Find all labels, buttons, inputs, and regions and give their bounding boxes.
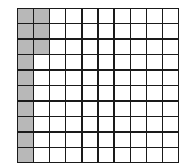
grid-cell (99, 24, 114, 38)
grid-cell (83, 55, 98, 69)
grid-cell (131, 40, 146, 54)
grid-cell (50, 71, 65, 85)
grid-cell-shaded (18, 102, 33, 116)
grid-cell (147, 117, 162, 131)
grid-cell (147, 40, 162, 54)
grid-cell (163, 55, 178, 69)
grid-cell (34, 102, 49, 116)
grid-cell (163, 40, 178, 54)
grid-cell (50, 40, 65, 54)
grid-cell (131, 55, 146, 69)
grid-cell-shaded (18, 40, 33, 54)
grid-cell (50, 86, 65, 100)
grid-cell (115, 133, 130, 147)
grid-cell (34, 71, 49, 85)
grid-cell (147, 133, 162, 147)
grid-cell (34, 55, 49, 69)
grid-cell-shaded (18, 55, 33, 69)
grid-cell (83, 71, 98, 85)
grid-cell (99, 102, 114, 116)
grid-cell (99, 117, 114, 131)
grid-cell (163, 86, 178, 100)
grid-cell (83, 133, 98, 147)
grid-cell (50, 117, 65, 131)
grid-cell (115, 102, 130, 116)
grid-cell-shaded (18, 71, 33, 85)
grid-cell (83, 24, 98, 38)
grid-cell (115, 9, 130, 23)
grid-cell (163, 102, 178, 116)
grid-cell (147, 102, 162, 116)
grid-cell-shaded (18, 9, 33, 23)
grid-cell (50, 102, 65, 116)
grid-cell (131, 71, 146, 85)
grid-cell (163, 133, 178, 147)
grid-cell (115, 71, 130, 85)
grid-cell-shaded (34, 9, 49, 23)
grid-cell (66, 117, 81, 131)
grid-cell (83, 117, 98, 131)
grid-cell (99, 148, 114, 162)
grid-cell (131, 117, 146, 131)
grid-cell (115, 24, 130, 38)
grid-cell (50, 55, 65, 69)
grid-cell-shaded (18, 117, 33, 131)
grid-cell (115, 148, 130, 162)
grid-cell (147, 24, 162, 38)
grid-cell (163, 117, 178, 131)
grid-cell (115, 40, 130, 54)
grid-cell (147, 148, 162, 162)
grid-cell (83, 102, 98, 116)
grid-cell (50, 148, 65, 162)
grid-cell (83, 40, 98, 54)
grid-cell (66, 9, 81, 23)
grid-cell (34, 148, 49, 162)
grid-cell (99, 133, 114, 147)
grid-cell (115, 117, 130, 131)
grid-cell (34, 133, 49, 147)
grid-cell-shaded (34, 40, 49, 54)
grid-cell (115, 55, 130, 69)
hundred-grid (17, 8, 179, 163)
grid-cell (66, 24, 81, 38)
grid-cell (163, 9, 178, 23)
grid-cell (99, 40, 114, 54)
grid-cell (147, 71, 162, 85)
grid-cell (131, 86, 146, 100)
grid-cell (131, 102, 146, 116)
grid-cell (147, 86, 162, 100)
grid-cell (163, 24, 178, 38)
grid-cell (66, 102, 81, 116)
grid-cell (147, 55, 162, 69)
grid-cell (99, 55, 114, 69)
grid-cell (83, 148, 98, 162)
grid-cell (131, 148, 146, 162)
grid-cell-shaded (18, 148, 33, 162)
grid-cell-shaded (18, 133, 33, 147)
grid-cell (50, 9, 65, 23)
grid-cell (99, 86, 114, 100)
grid-cell-shaded (18, 86, 33, 100)
grid-cell (50, 133, 65, 147)
grid-cell (163, 148, 178, 162)
grid-cell (66, 133, 81, 147)
grid-cell (131, 9, 146, 23)
grid-cell (115, 86, 130, 100)
grid-cell (66, 71, 81, 85)
grid-cell (163, 71, 178, 85)
grid-cell (66, 86, 81, 100)
grid-cell (99, 71, 114, 85)
grid-cell (66, 40, 81, 54)
grid-cell (131, 133, 146, 147)
grid-cell (83, 86, 98, 100)
grid-cell-shaded (18, 24, 33, 38)
grid-cell (34, 86, 49, 100)
grid-cell (99, 9, 114, 23)
grid-cell-shaded (34, 24, 49, 38)
grid-cell (83, 9, 98, 23)
grid-cell (147, 9, 162, 23)
grid-cell (34, 117, 49, 131)
grid-cell (131, 24, 146, 38)
grid-cell (66, 55, 81, 69)
grid-cell (50, 24, 65, 38)
